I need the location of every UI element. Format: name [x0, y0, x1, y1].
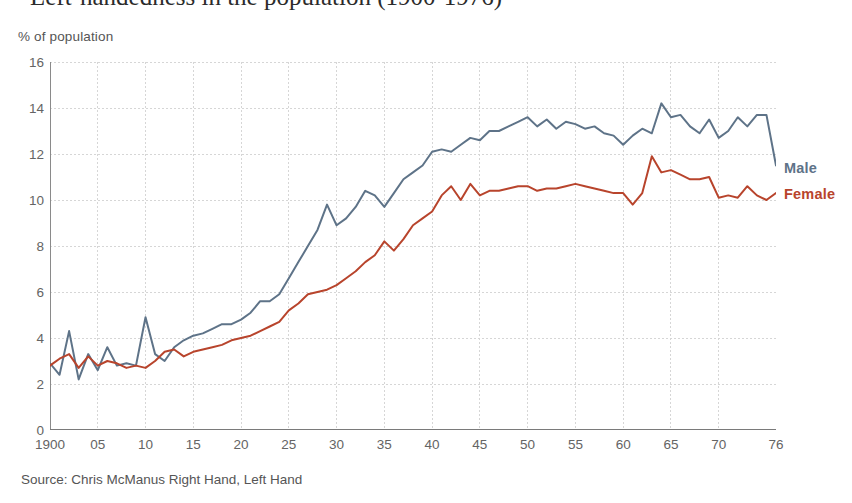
x-tick-label: 30: [329, 437, 344, 452]
y-tick-label: 14: [10, 101, 44, 116]
headline-text: Left-handedness in the population (1900-…: [30, 0, 502, 11]
series-line-female: [50, 156, 776, 368]
x-tick-label: 1900: [35, 437, 65, 452]
series-label-female: Female: [784, 186, 835, 202]
y-tick-label: 8: [10, 239, 44, 254]
y-tick-label: 0: [10, 423, 44, 438]
y-tick-label: 6: [10, 285, 44, 300]
y-axis-caption: % of population: [18, 29, 113, 44]
y-axis-tick-labels: 0246810121416: [0, 62, 44, 430]
x-tick-label: 50: [520, 437, 535, 452]
x-tick-label: 76: [768, 437, 783, 452]
headline-strip: Left-handedness in the population (1900-…: [0, 0, 852, 17]
line-chart-svg: [50, 62, 776, 430]
x-tick-label: 35: [377, 437, 392, 452]
y-tick-label: 16: [10, 55, 44, 70]
series-label-male: Male: [784, 160, 817, 176]
x-tick-label: 70: [711, 437, 726, 452]
x-tick-label: 15: [186, 437, 201, 452]
x-tick-label: 05: [90, 437, 105, 452]
x-axis-tick-labels: 1900051015202530354045505560657076: [50, 437, 776, 459]
x-tick-label: 40: [425, 437, 440, 452]
x-tick-label: 65: [663, 437, 678, 452]
y-tick-label: 10: [10, 193, 44, 208]
x-tick-label: 55: [568, 437, 583, 452]
y-tick-label: 2: [10, 377, 44, 392]
y-tick-label: 4: [10, 331, 44, 346]
x-tick-label: 20: [234, 437, 249, 452]
x-tick-label: 45: [472, 437, 487, 452]
source-note: Source: Chris McManus Right Hand, Left H…: [21, 472, 302, 487]
x-tick-label: 10: [138, 437, 153, 452]
y-tick-label: 12: [10, 147, 44, 162]
chart-plot-area: [50, 62, 776, 430]
x-tick-label: 25: [281, 437, 296, 452]
x-tick-label: 60: [616, 437, 631, 452]
